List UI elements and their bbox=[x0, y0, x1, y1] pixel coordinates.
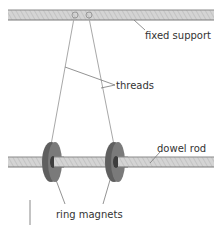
ring-magnet-right bbox=[105, 142, 128, 182]
ring-magnet-left bbox=[42, 142, 64, 182]
leader-ring-magnets bbox=[56, 180, 110, 204]
label-dowel-rod: dowel rod bbox=[157, 143, 206, 154]
leader-fixed-support bbox=[134, 20, 145, 30]
label-fixed-support: fixed support bbox=[145, 30, 211, 41]
label-threads: threads bbox=[116, 80, 154, 91]
label-ring-magnets: ring magnets bbox=[56, 209, 123, 220]
fixed-support-rod bbox=[8, 10, 214, 20]
ring-magnet-diagram: fixed support threads dowel rod ring mag… bbox=[0, 0, 224, 225]
leader-threads bbox=[65, 67, 115, 88]
